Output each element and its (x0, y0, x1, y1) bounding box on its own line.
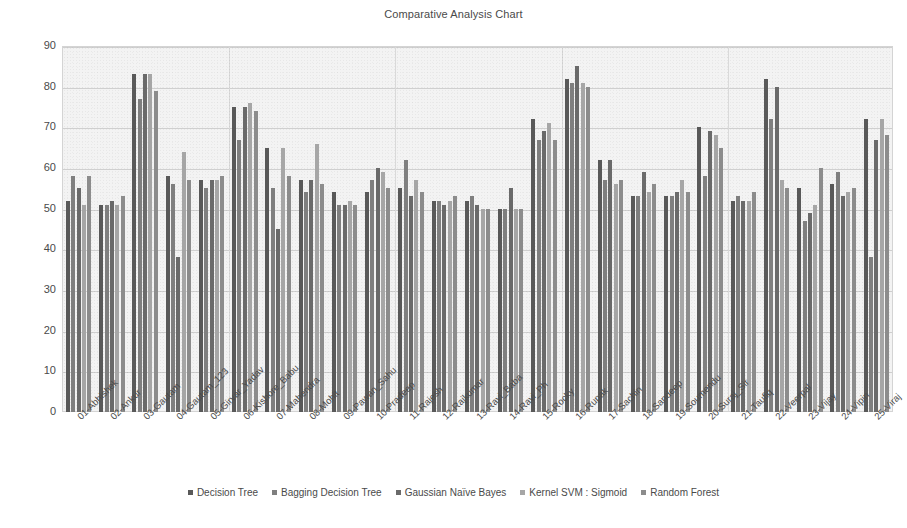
legend-item[interactable]: Kernel SVM : Sigmoid (520, 487, 627, 498)
bar (143, 74, 147, 412)
bar (808, 213, 812, 412)
bar (680, 180, 684, 412)
legend-label: Bagging Decision Tree (281, 487, 382, 498)
bar (864, 119, 868, 412)
bar (121, 196, 125, 412)
bar (299, 180, 303, 412)
bar (132, 74, 136, 412)
bar-group (394, 46, 427, 412)
bar (315, 144, 319, 412)
legend-label: Random Forest (650, 487, 719, 498)
bar (553, 140, 557, 412)
legend-label: Decision Tree (197, 487, 258, 498)
legend-item[interactable]: Random Forest (641, 487, 719, 498)
bar (87, 176, 91, 412)
bar (486, 209, 490, 412)
bar-group (128, 46, 161, 412)
bar-group (860, 46, 893, 412)
bar (442, 205, 446, 412)
bar-group (95, 46, 128, 412)
legend-swatch-icon (520, 490, 525, 495)
bar-group (760, 46, 793, 412)
bar-group (328, 46, 361, 412)
bar (414, 180, 418, 412)
bar (370, 180, 374, 412)
bar (154, 91, 158, 412)
bar (271, 188, 275, 412)
bar (714, 135, 718, 412)
bar (586, 87, 590, 412)
y-axis-tick-70: 70 (4, 121, 56, 132)
bar (575, 66, 579, 412)
bar (664, 196, 668, 412)
legend-label: Gaussian Naïve Bayes (405, 487, 507, 498)
bar (880, 119, 884, 412)
bar (813, 205, 817, 412)
bar-group (561, 46, 594, 412)
bar (148, 74, 152, 412)
bar (182, 152, 186, 412)
bar (320, 184, 324, 412)
bar (365, 192, 369, 412)
y-axis-tick-40: 40 (4, 243, 56, 254)
bar (846, 192, 850, 412)
bar (232, 107, 236, 412)
bar (631, 196, 635, 412)
bar (752, 192, 756, 412)
legend-item[interactable]: Bagging Decision Tree (272, 487, 382, 498)
bar (636, 196, 640, 412)
bar (465, 201, 469, 412)
bar (608, 160, 612, 412)
x-axis-labels: 01-Abhishek02-Ankur03-Gautam04-Gautam_12… (62, 412, 893, 482)
bar (166, 176, 170, 412)
bar (852, 188, 856, 412)
bar-group (793, 46, 826, 412)
bar (841, 196, 845, 412)
bar (248, 103, 252, 412)
bar (531, 119, 535, 412)
bar-group (594, 46, 627, 412)
y-axis-tick-10: 10 (4, 365, 56, 376)
legend-item[interactable]: Gaussian Naïve Bayes (396, 487, 507, 498)
bar (652, 184, 656, 412)
legend-label: Kernel SVM : Sigmoid (529, 487, 627, 498)
bar (869, 257, 873, 412)
bar (703, 176, 707, 412)
comparative-analysis-chart: Comparative Analysis Chart 0102030405060… (0, 0, 907, 528)
bar (797, 188, 801, 412)
bar (332, 192, 336, 412)
bar (432, 201, 436, 412)
bar (420, 192, 424, 412)
bar (686, 192, 690, 412)
bar (785, 188, 789, 412)
bar (547, 123, 551, 412)
bar-group (62, 46, 95, 412)
bar (719, 148, 723, 412)
bar-group (660, 46, 693, 412)
bar (537, 140, 541, 412)
bar (171, 184, 175, 412)
bar (642, 172, 646, 412)
bar (448, 201, 452, 412)
bar-group (494, 46, 527, 412)
bar (542, 131, 546, 412)
bar-group (527, 46, 560, 412)
y-axis-tick-30: 30 (4, 284, 56, 295)
bar (187, 180, 191, 412)
bar (348, 201, 352, 412)
bar-group (162, 46, 195, 412)
bar (243, 107, 247, 412)
bar (237, 140, 241, 412)
y-axis-tick-60: 60 (4, 162, 56, 173)
bar-group (694, 46, 727, 412)
bar-group (228, 46, 261, 412)
y-axis-tick-80: 80 (4, 81, 56, 92)
bar (581, 83, 585, 412)
bar (99, 205, 103, 412)
bar-group (827, 46, 860, 412)
bar (343, 205, 347, 412)
legend-item[interactable]: Decision Tree (188, 487, 258, 498)
y-axis-tick-90: 90 (4, 40, 56, 51)
bar (614, 184, 618, 412)
legend-swatch-icon (188, 490, 193, 495)
